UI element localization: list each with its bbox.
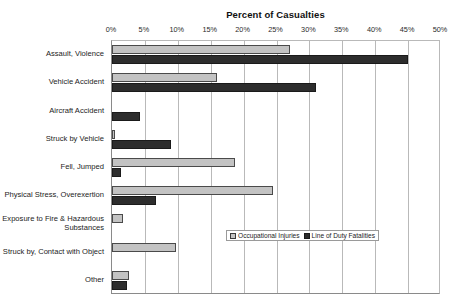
y-axis-category-label: Assault, Violence	[0, 49, 104, 59]
x-axis-tick-label: 20%	[235, 25, 250, 34]
legend-swatch-icon	[230, 233, 236, 239]
x-axis-tick-label: 10%	[169, 25, 184, 34]
x-axis-tick-labels: 0%5%10%15%20%25%30%35%40%45%50%	[0, 25, 466, 37]
chart-title: Percent of Casualties	[111, 9, 440, 20]
x-axis-tick-label: 50%	[433, 25, 448, 34]
x-axis-tick-label: 0%	[106, 25, 117, 34]
bar-line-of-duty-fatalities	[112, 112, 140, 121]
y-axis-category-label: Struck by Vehicle	[0, 134, 104, 144]
bar-line-of-duty-fatalities	[112, 83, 316, 92]
y-axis-category-label: Aircraft Accident	[0, 106, 104, 116]
bar-occupational-injuries	[112, 45, 290, 54]
chart-legend: Occupational InjuriesLine of Duty Fatali…	[226, 230, 379, 241]
bar-line-of-duty-fatalities	[112, 168, 121, 177]
y-axis-category-label: Fell, Jumped	[0, 162, 104, 172]
bar-line-of-duty-fatalities	[112, 281, 127, 290]
bar-occupational-injuries	[112, 186, 273, 195]
y-axis-category-label: Struck by, Contact with Object	[0, 247, 104, 257]
x-axis-tick-label: 25%	[268, 25, 283, 34]
bar-group	[112, 126, 439, 154]
legend-item: Occupational Injuries	[230, 232, 300, 239]
plot-area	[111, 40, 440, 294]
bar-occupational-injuries	[112, 214, 123, 223]
bar-occupational-injuries	[112, 73, 217, 82]
bar-occupational-injuries	[112, 271, 129, 280]
y-axis-category-label: Other	[0, 275, 104, 285]
bar-group	[112, 239, 439, 267]
bar-occupational-injuries	[112, 243, 176, 252]
y-axis-category-label: Physical Stress, Overexertion	[0, 190, 104, 200]
legend-label: Occupational Injuries	[238, 232, 300, 239]
y-axis-category-label: Exposure to Fire & Hazardous Substances	[0, 214, 104, 233]
legend-item: Line of Duty Fatalities	[304, 232, 375, 239]
bar-occupational-injuries	[112, 130, 115, 139]
legend-swatch-icon	[304, 233, 310, 239]
x-axis-tick-label: 35%	[334, 25, 349, 34]
bar-group	[112, 97, 439, 125]
legend-label: Line of Duty Fatalities	[312, 232, 375, 239]
y-axis-category-labels: Assault, ViolenceVehicle AccidentAircraf…	[0, 40, 108, 294]
bar-group	[112, 267, 439, 295]
chart-container: Percent of Casualties 0%5%10%15%20%25%30…	[0, 0, 466, 308]
bar-group	[112, 41, 439, 69]
y-axis-category-label: Vehicle Accident	[0, 77, 104, 87]
x-axis-tick-label: 5%	[139, 25, 150, 34]
bar-group	[112, 182, 439, 210]
x-axis-tick-label: 45%	[400, 25, 415, 34]
bar-rows	[112, 41, 439, 293]
bar-line-of-duty-fatalities	[112, 55, 408, 64]
bar-occupational-injuries	[112, 158, 235, 167]
bar-line-of-duty-fatalities	[112, 196, 156, 205]
bar-line-of-duty-fatalities	[112, 140, 171, 149]
bar-group	[112, 69, 439, 97]
x-axis-tick-label: 30%	[301, 25, 316, 34]
bar-group	[112, 154, 439, 182]
x-axis-tick-label: 15%	[202, 25, 217, 34]
x-axis-tick-label: 40%	[367, 25, 382, 34]
